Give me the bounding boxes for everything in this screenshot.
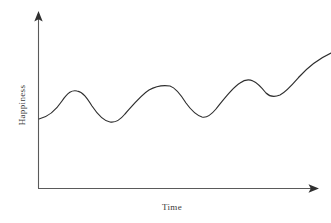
- chart-canvas: Happiness Time: [0, 0, 331, 223]
- chart-background: [0, 0, 331, 223]
- y-axis-label: Happiness: [17, 85, 27, 126]
- x-axis-label: Time: [162, 202, 182, 212]
- chart-figure: Happiness Time: [0, 0, 331, 223]
